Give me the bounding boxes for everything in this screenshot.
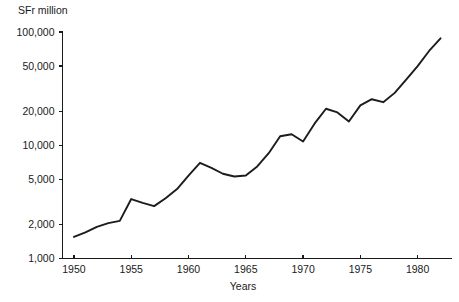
y-tick-label: 2,000: [28, 218, 54, 230]
chart-container: SFr million 100,00050,00020,00010,0005,0…: [0, 0, 459, 302]
data-series-line: [74, 38, 441, 237]
x-tick-label: 1980: [406, 263, 430, 275]
y-tick-label: 100,000: [17, 26, 55, 38]
y-tick-label: 10,000: [22, 139, 54, 151]
x-tick-label: 1965: [234, 263, 258, 275]
x-tick-label: 1955: [120, 263, 144, 275]
x-tick-label: 1960: [177, 263, 201, 275]
x-axis-title: Years: [230, 280, 256, 292]
x-tick-label: 1950: [62, 263, 86, 275]
y-tick-label: 1,000: [28, 252, 54, 264]
y-axis-unit-title: SFr million: [18, 4, 68, 16]
x-tick-labels: 1950195519601965197019751980: [62, 263, 429, 275]
y-axis-group: 100,00050,00020,00010,0005,0002,0001,000: [17, 26, 63, 265]
x-tick-label: 1975: [349, 263, 373, 275]
x-tick-label: 1970: [291, 263, 315, 275]
y-tick-label: 5,000: [28, 173, 54, 185]
y-tick-labels: 100,00050,00020,00010,0005,0002,0001,000: [17, 26, 55, 265]
y-tick-label: 50,000: [22, 60, 54, 72]
line-chart: SFr million 100,00050,00020,00010,0005,0…: [0, 0, 459, 302]
x-axis-group: 1950195519601965197019751980: [62, 255, 452, 275]
y-tick-marks: [59, 32, 63, 259]
y-tick-label: 20,000: [22, 105, 54, 117]
